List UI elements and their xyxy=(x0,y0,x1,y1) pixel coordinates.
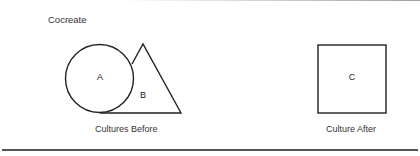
triangle-label: B xyxy=(140,90,146,100)
caption-cultures-before: Cultures Before xyxy=(95,124,158,134)
triangle-b: B xyxy=(100,44,181,113)
circle-a: A xyxy=(66,45,134,113)
bottom-divider xyxy=(2,149,418,151)
square-c: C xyxy=(318,45,386,113)
circle-label: A xyxy=(97,72,103,82)
caption-culture-after: Culture After xyxy=(326,124,376,134)
square-label: C xyxy=(349,72,356,82)
